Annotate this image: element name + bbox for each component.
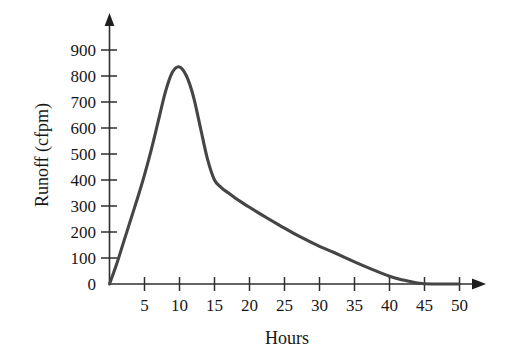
y-tick-label-0: 0	[88, 275, 97, 294]
y-axis-tick-labels: 0 100 200 300 400 500 600 700 800 900	[71, 41, 97, 294]
runoff-hydrograph-chart: 0 100 200 300 400 500 600 700 800 900 5 …	[0, 0, 509, 364]
x-tick-label-5: 5	[140, 296, 149, 315]
y-tick-label-800: 800	[71, 67, 97, 86]
up-arrow-icon	[105, 13, 115, 26]
x-axis-tick-labels: 5 10 15 20 25 30 35 40 45 50	[140, 296, 468, 315]
y-tick-label-500: 500	[71, 145, 97, 164]
x-tick-label-20: 20	[241, 296, 258, 315]
y-tick-label-100: 100	[71, 249, 97, 268]
x-tick-label-45: 45	[416, 296, 433, 315]
x-tick-label-30: 30	[311, 296, 328, 315]
y-tick-label-400: 400	[71, 171, 97, 190]
y-tick-label-300: 300	[71, 197, 97, 216]
x-tick-label-25: 25	[276, 296, 293, 315]
y-tick-label-900: 900	[71, 41, 97, 60]
x-axis-title: Hours	[265, 328, 309, 348]
y-tick-label-200: 200	[71, 223, 97, 242]
runoff-curve	[110, 67, 460, 284]
x-tick-label-40: 40	[381, 296, 398, 315]
y-tick-label-600: 600	[71, 119, 97, 138]
x-tick-label-15: 15	[206, 296, 223, 315]
right-arrow-icon	[472, 279, 486, 290]
y-tick-label-700: 700	[71, 93, 97, 112]
y-axis-title: Runoff (cfpm)	[32, 103, 53, 207]
x-tick-label-35: 35	[346, 296, 363, 315]
chart-canvas: 0 100 200 300 400 500 600 700 800 900 5 …	[0, 0, 509, 364]
x-tick-label-50: 50	[451, 296, 468, 315]
x-tick-label-10: 10	[171, 296, 188, 315]
